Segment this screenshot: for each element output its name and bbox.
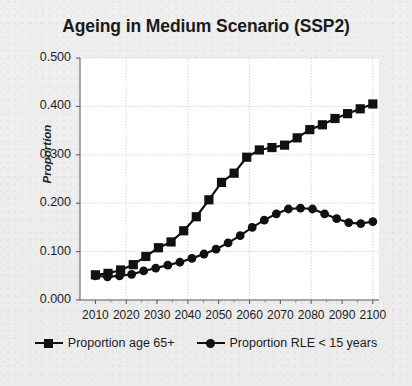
y-tick-label: 0.400 bbox=[27, 98, 71, 112]
y-tick-label: 0.300 bbox=[27, 147, 71, 161]
x-tick-label: 2100 bbox=[353, 308, 393, 322]
y-tick-label: 0.100 bbox=[27, 244, 71, 258]
gridlines bbox=[80, 58, 379, 300]
y-tick-label: 0.200 bbox=[27, 195, 71, 209]
y-tick-label: 0.000 bbox=[27, 292, 71, 306]
legend-label: Proportion age 65+ bbox=[68, 336, 175, 350]
legend-entry[interactable]: Proportion RLE < 15 years bbox=[197, 336, 378, 350]
chart-legend: Proportion age 65+Proportion RLE < 15 ye… bbox=[0, 336, 412, 350]
chart-figure: Ageing in Medium Scenario (SSP2) Proport… bbox=[0, 0, 412, 386]
y-tick-label: 0.500 bbox=[27, 50, 71, 64]
legend-circle-marker-icon bbox=[197, 337, 225, 349]
legend-entry[interactable]: Proportion age 65+ bbox=[35, 336, 175, 350]
legend-square-marker-icon bbox=[35, 337, 63, 349]
legend-label: Proportion RLE < 15 years bbox=[230, 336, 378, 350]
